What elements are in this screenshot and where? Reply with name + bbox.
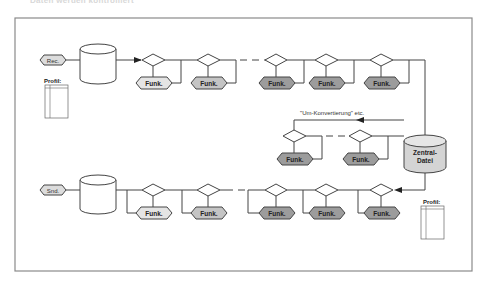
conversion-note: "Um-Konvertierung" etc.: [300, 110, 365, 116]
input-database-icon: [80, 44, 116, 84]
receive-label: Rec.: [47, 58, 60, 64]
profile-label-out: Profil:: [423, 199, 440, 205]
function-label: Funk.: [318, 210, 336, 217]
function-label: Funk.: [373, 80, 391, 87]
function-label: Funk.: [268, 80, 286, 87]
function-label: Funk.: [145, 80, 163, 87]
profile-document-icon: [421, 206, 444, 239]
function-label: Funk.: [373, 210, 391, 217]
central-file-database-icon: Zentral- Datei: [404, 135, 446, 173]
central-file-label-line2: Datei: [417, 157, 433, 164]
function-label: Funk.: [145, 210, 163, 217]
send-label: Snd.: [47, 188, 60, 194]
central-file-label-line1: Zentral-: [413, 149, 437, 156]
send-tag: Snd.: [40, 185, 66, 195]
process-diagram: Rec. Profil: Funk. Funk.: [0, 0, 485, 285]
profile-document-icon: [45, 85, 68, 118]
function-label: Funk.: [200, 210, 218, 217]
function-label: Funk.: [200, 80, 218, 87]
profile-label-in: Profil:: [44, 78, 61, 84]
function-label: Funk.: [286, 156, 304, 163]
output-database-icon: [80, 175, 116, 214]
receive-tag: Rec.: [40, 55, 66, 65]
function-label: Funk.: [268, 210, 286, 217]
function-label: Funk.: [352, 156, 370, 163]
function-label: Funk.: [318, 80, 336, 87]
